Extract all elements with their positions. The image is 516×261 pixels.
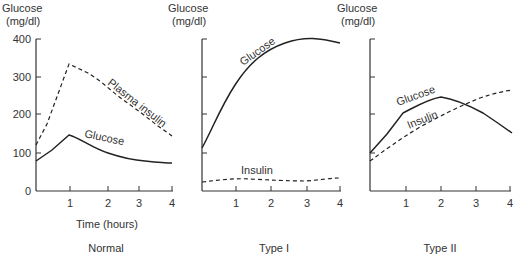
y-axis-label-line1: Glucose xyxy=(337,2,377,14)
normal-insulin-label: Plasma insulin xyxy=(106,76,169,129)
panel-title-type2: Type II xyxy=(423,242,456,254)
x-tick-1: 1 xyxy=(403,197,409,209)
y-tick-200: 200 xyxy=(13,108,31,120)
x-tick-3: 3 xyxy=(304,197,310,209)
panel-normal: Glucose (mg/dl) 400 300 200 100 0 1 2 3 … xyxy=(2,2,175,254)
y-axis-label-line1: Glucose xyxy=(168,2,208,14)
type2-insulin-label: Insulin xyxy=(405,108,439,131)
type1-glucose-line xyxy=(202,38,340,148)
x-tick-2: 2 xyxy=(105,197,111,209)
y-tick-0: 0 xyxy=(25,185,31,197)
x-tick-4: 4 xyxy=(507,197,513,209)
type1-insulin-line xyxy=(202,178,340,182)
panel-type1: Glucose (mg/dl) 1 2 3 4 Type I Glucose I… xyxy=(168,2,343,254)
x-tick-2: 2 xyxy=(268,197,274,209)
y-axis-label-line2: (mg/dl) xyxy=(172,15,206,27)
panel-title-normal: Normal xyxy=(88,242,123,254)
y-tick-300: 300 xyxy=(13,71,31,83)
type1-insulin-label: Insulin xyxy=(241,164,273,176)
type1-glucose-label: Glucose xyxy=(237,35,277,68)
panel-title-type1: Type I xyxy=(259,242,289,254)
glucose-insulin-figure: Glucose (mg/dl) 400 300 200 100 0 1 2 3 … xyxy=(0,0,516,261)
type2-glucose-label: Glucose xyxy=(395,83,437,108)
x-tick-3: 3 xyxy=(473,197,479,209)
y-axis-label-line1: Glucose xyxy=(2,2,42,14)
y-tick-100: 100 xyxy=(13,147,31,159)
x-tick-2: 2 xyxy=(438,197,444,209)
x-tick-4: 4 xyxy=(169,197,175,209)
type2-insulin-line xyxy=(370,90,512,161)
y-tick-400: 400 xyxy=(13,33,31,45)
y-axis-label-line2: (mg/dl) xyxy=(341,15,375,27)
y-axis-label-line2: (mg/dl) xyxy=(6,15,40,27)
x-tick-3: 3 xyxy=(136,197,142,209)
type2-glucose-line xyxy=(370,97,512,153)
x-tick-1: 1 xyxy=(67,197,73,209)
x-tick-1: 1 xyxy=(233,197,239,209)
x-tick-4: 4 xyxy=(337,197,343,209)
x-axis-label: Time (hours) xyxy=(76,218,138,230)
panel-type2: Glucose (mg/dl) 1 2 3 4 Type II Glucose … xyxy=(337,2,513,254)
